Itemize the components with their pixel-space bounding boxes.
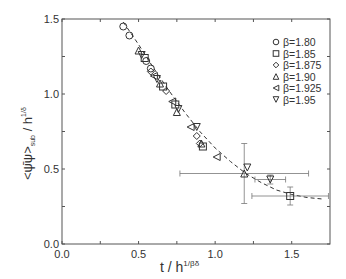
legend: β=1.80β=1.85β=1.875β=1.90β=1.925β=1.95 [273, 36, 321, 106]
x-tick-label: 1.0 [207, 248, 222, 260]
y-tick-label: 0.5 [44, 163, 59, 175]
legend-item: β=1.90 [283, 71, 316, 83]
series-triangle-left [150, 73, 220, 161]
scaling-plot: 0.00.51.01.50.00.51.01.5 β=1.80β=1.85β=1… [0, 0, 346, 279]
legend-item: β=1.80 [283, 36, 316, 48]
legend-item: β=1.925 [283, 82, 322, 94]
series-circle [120, 23, 155, 72]
x-axis-label: t / h1/βδ [160, 259, 200, 275]
y-tick-label: 1.0 [44, 88, 59, 100]
legend-item: β=1.85 [283, 48, 316, 60]
legend-item: β=1.95 [283, 94, 316, 106]
series-triangle-down [138, 52, 285, 185]
y-axis-label: <ψ̄ψ>sub / h1/δ [20, 107, 36, 180]
y-tick-label: 1.5 [44, 13, 59, 25]
x-tick-label: 1.5 [284, 248, 299, 260]
x-tick-label: 0.5 [131, 248, 146, 260]
y-tick-label: 0.0 [44, 238, 59, 250]
legend-item: β=1.875 [283, 59, 322, 71]
